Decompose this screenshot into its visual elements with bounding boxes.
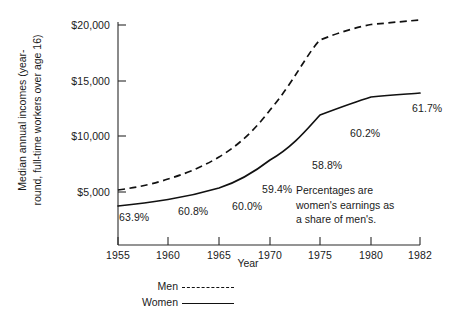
x-tick-label-1960: 1960 (143, 249, 193, 261)
legend-item-men: Men (104, 279, 234, 295)
x-axis-label: Year (237, 257, 258, 269)
legend-label-women: Women (142, 296, 178, 308)
plot-area (0, 0, 468, 320)
x-tick-label-1975: 1975 (295, 249, 345, 261)
x-tick-label-1980: 1980 (346, 249, 396, 261)
legend-item-women: Women (104, 295, 234, 311)
point-label-1982: 61.7% (412, 102, 442, 114)
y-tick-label-15000: $15,000 (38, 75, 110, 87)
chart-figure: Median annual incomes (year- round, full… (0, 0, 468, 320)
point-label-1965: 60.0% (232, 200, 262, 212)
legend-swatch-women-solid-line (182, 303, 234, 304)
x-tick-label-1955: 1955 (93, 249, 143, 261)
x-tick-label-1982: 1982 (395, 249, 445, 261)
point-label-1970: 59.4% (262, 183, 292, 195)
y-tick-label-20000: $20,000 (38, 19, 110, 31)
y-tick-label-5000: $5,000 (38, 186, 110, 198)
legend-label-men: Men (158, 280, 178, 292)
point-label-1960: 60.8% (178, 205, 208, 217)
point-label-1975: 58.8% (312, 159, 342, 171)
chart-legend: Men Women (104, 279, 234, 311)
series-line-men (118, 20, 420, 190)
y-tick-label-10000: $10,000 (38, 130, 110, 142)
chart-annotation: Percentages are women's earnings as a sh… (296, 183, 394, 227)
point-label-1955: 63.9% (119, 211, 149, 223)
legend-swatch-men-dashed-line (182, 287, 234, 288)
point-label-1980: 60.2% (350, 127, 380, 139)
